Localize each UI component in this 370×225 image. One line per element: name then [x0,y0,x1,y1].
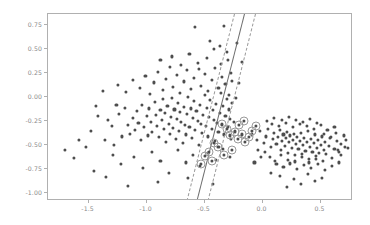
data-point [255,139,258,142]
y-axis-tick-label: 0.00 [28,92,42,99]
data-point [322,132,325,135]
data-point [188,52,191,55]
data-point [180,120,183,123]
data-point [168,132,171,135]
data-point [335,140,338,143]
y-axis-tick-label: -0.25 [25,116,42,123]
data-point [173,108,176,111]
data-point [151,150,154,153]
data-point [194,128,197,131]
y-axis-tick-label: 0.25 [28,68,42,75]
data-point [295,118,298,121]
data-point [162,127,165,130]
data-point [312,127,315,130]
scatter-plot-figure: -1.5-1.0-0.50.00.50.750.500.250.00-0.25-… [0,0,370,225]
data-point [211,109,214,112]
data-point [282,166,285,169]
data-point [298,140,301,143]
data-point [311,150,314,153]
data-point [210,78,213,81]
data-point [142,167,145,170]
data-point [263,150,266,153]
data-point [259,129,262,132]
data-point [310,167,313,170]
data-point [309,118,312,121]
data-point [64,148,67,151]
data-point [267,127,270,130]
data-point [292,177,295,180]
data-point [167,171,170,174]
decision-boundary-line [196,14,245,200]
data-point [200,85,203,88]
data-point [212,47,215,50]
data-point [140,103,143,106]
data-point [147,107,150,110]
x-axis-tick-label: 0.0 [256,205,266,212]
data-point [182,80,185,83]
data-point [288,116,291,119]
data-point [198,103,201,106]
data-point [293,160,296,163]
data-point [273,131,276,134]
data-point [174,138,177,141]
data-point [291,125,294,128]
data-point [189,88,192,91]
data-point [187,95,190,98]
data-point [139,139,142,142]
data-point [180,64,183,67]
data-point [299,131,302,134]
data-point [331,156,334,159]
data-point [107,118,110,121]
data-point [284,121,287,124]
data-point [338,161,341,164]
data-point [168,65,171,68]
data-point [186,113,189,116]
y-axis-tick [44,24,47,25]
x-axis-tick [88,200,89,203]
data-point [307,161,310,164]
data-point [194,25,197,28]
data-point [329,136,332,139]
data-point [157,70,160,73]
data-point [196,119,199,122]
data-point [184,161,187,164]
data-point [340,143,343,146]
data-point [229,155,232,158]
data-point [137,121,140,124]
data-point [155,124,158,127]
data-point [275,163,278,166]
data-point [152,81,155,84]
data-point [321,159,324,162]
x-axis-tick-label: -0.5 [197,205,209,212]
data-point [274,159,277,162]
data-point [103,139,106,142]
data-point [305,124,308,127]
y-axis-tick [44,144,47,145]
data-point [161,89,164,92]
data-point [307,157,310,160]
data-point [210,127,213,130]
data-point [126,123,129,126]
data-point [312,142,315,145]
data-point [126,184,129,187]
data-point [175,118,178,121]
data-point [275,143,278,146]
data-point [212,118,215,121]
data-point [96,115,99,118]
data-point [320,176,323,179]
data-point [334,131,337,134]
data-point [314,157,317,160]
data-point [131,78,134,81]
data-point [222,104,225,107]
data-point [213,66,216,69]
data-point [203,72,206,75]
y-axis-tick [44,48,47,49]
data-point [226,59,229,62]
plot-area [47,13,352,200]
data-point [218,44,221,47]
data-point [318,151,321,154]
data-point [220,75,223,78]
x-axis-tick [262,200,263,203]
data-point [217,87,220,90]
data-point [297,147,300,150]
